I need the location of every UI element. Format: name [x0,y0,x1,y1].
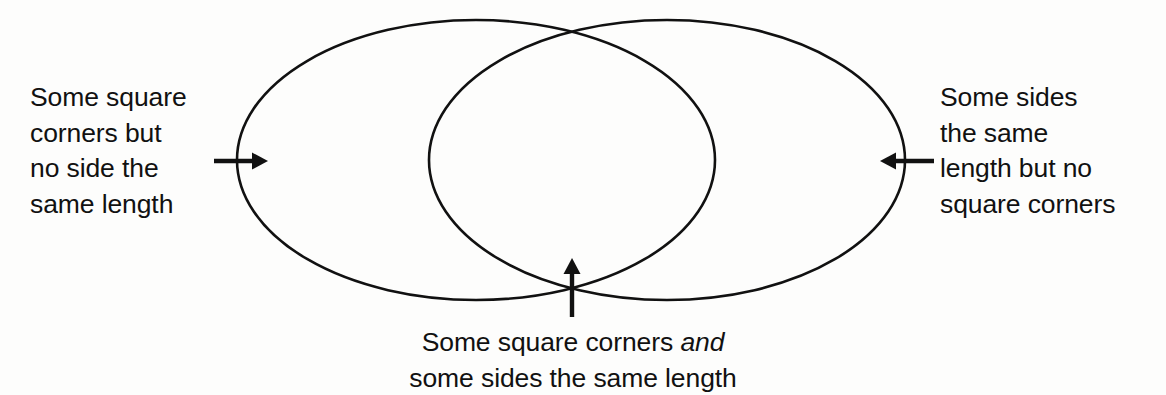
right-pointer-arrow-icon [880,153,934,170]
intersection-label-line1-prefix: Some square corners [422,327,681,357]
intersection-label: Some square corners andsome sides the sa… [343,325,803,395]
left-set-label: Some square corners but no side the same… [30,80,230,222]
intersection-label-emphasis: and [680,327,724,357]
venn-diagram-canvas: Some square corners but no side the same… [0,0,1166,395]
right-set-ellipse [429,20,905,300]
intersection-label-line2: some sides the same length [409,363,736,393]
left-set-ellipse [237,20,715,300]
right-set-label: Some sides the same length but no square… [940,80,1155,222]
